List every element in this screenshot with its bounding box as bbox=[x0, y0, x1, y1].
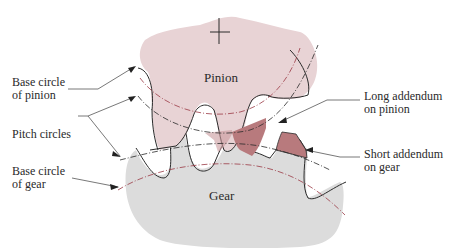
pitch-circles-label: Pitch circles bbox=[12, 128, 71, 141]
base-circle-pinion-label: Base circle of pinion bbox=[12, 76, 65, 102]
short-addendum-label: Short addendum on gear bbox=[364, 148, 443, 174]
base-circle-gear-label: Base circle of gear bbox=[12, 165, 65, 191]
gear-label: Gear bbox=[209, 188, 234, 204]
long-addendum-label: Long addendum on pinion bbox=[364, 90, 442, 116]
gear-mesh-diagram bbox=[0, 0, 457, 248]
pinion-label: Pinion bbox=[204, 70, 238, 86]
